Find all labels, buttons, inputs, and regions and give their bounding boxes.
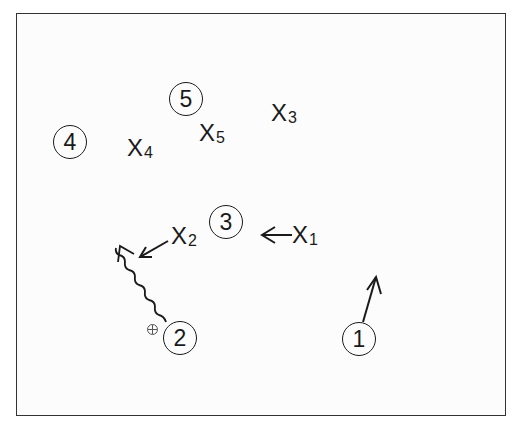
player-number: 4 <box>64 129 77 156</box>
defense-player-x5: X5 <box>199 121 225 148</box>
defense-player-x3: X3 <box>271 101 297 128</box>
offense-player-4: 4 <box>53 125 87 159</box>
arrow-player-1-cut <box>363 277 381 322</box>
play-arrows-layer <box>0 0 518 432</box>
defender-number: 3 <box>288 109 297 126</box>
arrow-x1-slide <box>262 227 292 243</box>
defender-number: 2 <box>188 232 197 249</box>
player-number: 1 <box>353 326 366 353</box>
defense-player-x4: X4 <box>127 136 153 163</box>
player-number: 3 <box>220 209 233 236</box>
offense-player-2: 2 <box>163 321 197 355</box>
defender-letter: X <box>171 222 187 249</box>
defender-number: 1 <box>309 231 318 248</box>
arrow-x2-slide <box>140 241 168 257</box>
offense-player-1: 1 <box>342 322 376 356</box>
defender-letter: X <box>127 134 143 161</box>
defense-player-x1: X1 <box>292 223 318 250</box>
defender-letter: X <box>292 221 308 248</box>
offense-player-3: 3 <box>209 205 243 239</box>
player-number: 5 <box>180 86 193 113</box>
defender-letter: X <box>271 99 287 126</box>
offense-player-5: 5 <box>169 82 203 116</box>
defense-player-x2: X2 <box>171 224 197 251</box>
defender-letter: X <box>199 119 215 146</box>
player-number: 2 <box>174 325 187 352</box>
defender-number: 5 <box>216 129 225 146</box>
basketball-icon <box>147 324 158 335</box>
defender-number: 4 <box>144 144 153 161</box>
